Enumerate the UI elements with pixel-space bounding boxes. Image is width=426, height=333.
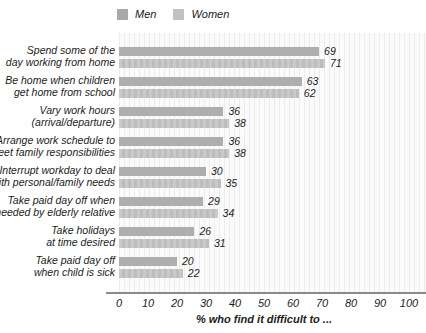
- category-label-line: (arrival/departure): [32, 117, 115, 129]
- x-tick-label: 70: [316, 297, 328, 309]
- x-tick-label: 30: [200, 297, 212, 309]
- x-tick-label: 100: [400, 297, 418, 309]
- value-label-women: 34: [223, 209, 235, 218]
- category-label-line: meet family responsibilities: [0, 147, 115, 159]
- legend-label-men: Men: [135, 8, 156, 20]
- plot-area: 69716362363836383035293426312022: [119, 33, 426, 292]
- category-label-line: Be home when children: [5, 75, 115, 87]
- category-label: Be home when childrenget home from schoo…: [5, 75, 115, 98]
- bar-men: [119, 227, 194, 236]
- legend-label-women: Women: [191, 8, 229, 20]
- bar-men: [119, 107, 223, 116]
- x-axis-title: % who find it difficult to ...: [119, 313, 409, 325]
- bar-women: [119, 89, 299, 98]
- value-label-women: 62: [304, 89, 316, 98]
- category-label-line: Take paid day off when: [0, 195, 115, 207]
- category-label: Take paid day off whenneeded by elderly …: [0, 195, 115, 218]
- bar-women: [119, 59, 325, 68]
- category-label-line: needed by elderly relative: [0, 207, 115, 219]
- value-label-women: 38: [234, 149, 246, 158]
- value-label-women: 35: [226, 179, 238, 188]
- category-label: Take paid day offwhen child is sick: [34, 255, 115, 278]
- x-tick-label: 10: [142, 297, 154, 309]
- bar-men: [119, 77, 302, 86]
- x-tick-label: 40: [229, 297, 241, 309]
- category-label: Vary work hours(arrival/departure): [32, 105, 115, 128]
- category-label-line: with personal/family needs: [0, 177, 115, 189]
- bar-men: [119, 197, 203, 206]
- x-tick-label: 60: [287, 297, 299, 309]
- category-label: Interrupt workday to dealwith personal/f…: [0, 165, 115, 188]
- category-label: Take holidaysat time desired: [46, 225, 115, 248]
- category-label: Spend some of theday working from home: [6, 45, 115, 68]
- value-label-men: 63: [307, 77, 319, 86]
- bar-women: [119, 149, 229, 158]
- legend-item-men: Men: [117, 8, 156, 20]
- legend: Men Women: [117, 8, 229, 20]
- bar-men: [119, 167, 206, 176]
- value-label-men: 36: [228, 107, 240, 116]
- category-label-line: get home from school: [5, 87, 115, 99]
- value-label-men: 36: [228, 137, 240, 146]
- bar-women: [119, 209, 218, 218]
- category-label-line: when child is sick: [34, 267, 115, 279]
- category-label-line: Arrange work schedule to: [0, 135, 115, 147]
- category-label-line: Interrupt workday to deal: [0, 165, 115, 177]
- category-label-line: Take paid day off: [34, 255, 115, 267]
- bar-women: [119, 179, 221, 188]
- men-swatch-icon: [117, 9, 128, 20]
- category-label-line: day working from home: [6, 57, 115, 69]
- bar-men: [119, 47, 319, 56]
- category-label-line: at time desired: [46, 237, 115, 249]
- value-label-men: 30: [211, 167, 223, 176]
- x-axis-line: [106, 292, 426, 294]
- x-tick-label: 50: [258, 297, 270, 309]
- value-label-women: 31: [214, 239, 226, 248]
- category-label-line: Spend some of the: [6, 45, 115, 57]
- value-label-men: 26: [199, 227, 211, 236]
- value-label-men: 29: [208, 197, 220, 206]
- x-tick-label: 0: [116, 297, 122, 309]
- category-label-line: Take holidays: [46, 225, 115, 237]
- women-swatch-icon: [173, 9, 184, 20]
- category-label: Arrange work schedule tomeet family resp…: [0, 135, 115, 158]
- bar-men: [119, 257, 177, 266]
- bar-men: [119, 137, 223, 146]
- category-label-line: Vary work hours: [32, 105, 115, 117]
- value-label-men: 69: [324, 47, 336, 56]
- bar-chart: Men Women 697163623638363830352934263120…: [0, 0, 426, 333]
- value-label-women: 22: [188, 269, 200, 278]
- bar-women: [119, 269, 183, 278]
- legend-item-women: Women: [173, 8, 229, 20]
- bar-women: [119, 239, 209, 248]
- x-tick-label: 80: [345, 297, 357, 309]
- value-label-women: 38: [234, 119, 246, 128]
- value-label-women: 71: [330, 59, 342, 68]
- value-label-men: 20: [182, 257, 194, 266]
- bar-women: [119, 119, 229, 128]
- x-tick-label: 20: [171, 297, 183, 309]
- x-tick-label: 90: [374, 297, 386, 309]
